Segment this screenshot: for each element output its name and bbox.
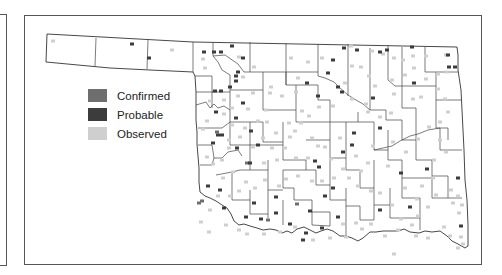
probable-point-marker <box>304 232 308 235</box>
probable-point-marker <box>313 160 317 163</box>
probable-point-marker <box>408 206 412 209</box>
probable-point-marker <box>244 216 248 219</box>
observed-point-marker <box>349 45 353 48</box>
observed-point-marker <box>386 165 390 168</box>
probable-point-marker <box>219 90 223 93</box>
observed-point-marker <box>294 157 298 160</box>
probable-point-marker <box>331 59 335 62</box>
probable-point-marker <box>249 130 253 133</box>
observed-point-marker <box>205 120 209 123</box>
probable-point-marker <box>222 207 226 210</box>
observed-point-marker <box>416 138 420 141</box>
observed-point-marker <box>252 66 256 69</box>
observed-point-marker <box>426 237 430 240</box>
observed-point-marker <box>262 233 266 236</box>
observed-point-marker <box>456 195 460 198</box>
probable-point-marker <box>241 102 245 105</box>
probable-point-marker <box>234 75 238 78</box>
observed-point-marker <box>391 141 395 144</box>
probable-point-marker <box>399 172 403 175</box>
observed-point-marker <box>283 147 287 150</box>
observed-point-marker <box>392 57 396 60</box>
probable-point-marker <box>323 195 327 198</box>
probable-point-marker <box>212 51 216 54</box>
legend-item-confirmed: Confirmed <box>88 86 170 105</box>
observed-point-marker <box>310 137 314 140</box>
observed-point-marker <box>310 180 314 183</box>
observed-point-marker <box>230 107 234 110</box>
legend-label: Probable <box>117 109 163 121</box>
observed-point-marker <box>205 156 209 159</box>
probable-point-marker <box>230 45 234 48</box>
observed-point-marker <box>296 77 300 80</box>
probable-point-marker <box>147 57 151 60</box>
observed-point-marker <box>401 59 405 62</box>
observed-point-marker <box>434 194 438 197</box>
observed-point-marker <box>262 162 266 165</box>
observed-point-marker <box>378 116 382 119</box>
observed-point-marker <box>227 139 231 142</box>
observed-point-marker <box>457 212 461 215</box>
probable-point-marker <box>410 46 414 49</box>
observed-point-marker <box>253 187 257 190</box>
observed-point-marker <box>237 190 241 193</box>
observed-point-marker <box>201 58 205 61</box>
observed-point-marker <box>288 136 292 139</box>
observed-point-marker <box>415 198 419 201</box>
observed-point-marker <box>329 158 333 161</box>
probable-point-marker <box>371 97 375 100</box>
confirmed-point-marker <box>295 203 299 206</box>
observed-point-marker <box>224 224 228 227</box>
observed-point-marker <box>449 189 453 192</box>
observed-point-marker <box>403 74 407 77</box>
observed-point-marker <box>451 202 455 205</box>
observed-point-marker <box>410 224 414 227</box>
probable-point-marker <box>211 142 215 145</box>
map-legend: Confirmed Probable Observed <box>88 86 170 143</box>
probable-point-marker <box>259 218 263 221</box>
probable-point-marker <box>326 72 330 75</box>
observed-point-marker <box>237 56 241 59</box>
observed-point-marker <box>265 121 269 124</box>
observed-point-marker <box>307 115 311 118</box>
observed-point-marker <box>208 100 212 103</box>
probable-point-marker <box>218 189 222 192</box>
observed-point-marker <box>238 136 242 139</box>
observed-point-marker <box>411 55 415 58</box>
probable-point-marker <box>350 144 354 147</box>
probable-point-marker <box>130 43 134 46</box>
observed-point-marker <box>270 147 274 150</box>
observed-point-marker <box>280 95 284 98</box>
observed-point-marker <box>369 223 373 226</box>
observed-point-marker <box>331 105 335 108</box>
probable-point-marker <box>256 144 260 147</box>
confirmed-swatch-icon <box>88 89 107 102</box>
observed-point-marker <box>438 121 442 124</box>
observed-point-marker <box>278 231 282 234</box>
observed-point-marker <box>360 228 364 231</box>
legend-item-observed: Observed <box>88 124 170 143</box>
probable-point-marker <box>459 225 463 228</box>
observed-point-marker <box>201 128 205 131</box>
observed-point-marker <box>354 155 358 158</box>
observed-point-marker <box>316 145 320 148</box>
observed-point-marker <box>436 88 440 91</box>
observed-point-marker <box>427 126 431 129</box>
observed-point-marker <box>414 235 418 238</box>
observed-point-marker <box>426 206 430 209</box>
observed-point-marker <box>289 57 293 60</box>
observed-point-marker <box>404 151 408 154</box>
legend-label: Observed <box>117 128 167 140</box>
legend-label: Confirmed <box>117 90 170 102</box>
probable-point-marker <box>216 134 220 137</box>
probable-point-marker <box>446 54 450 57</box>
probable-point-marker <box>385 49 389 52</box>
probable-point-marker <box>378 51 382 54</box>
probable-point-marker <box>235 147 239 150</box>
observed-point-marker <box>378 192 382 195</box>
observed-point-marker <box>459 236 463 239</box>
observed-point-marker <box>231 171 235 174</box>
probable-point-marker <box>308 210 312 213</box>
observed-point-marker <box>383 235 387 238</box>
observed-point-marker <box>356 185 360 188</box>
